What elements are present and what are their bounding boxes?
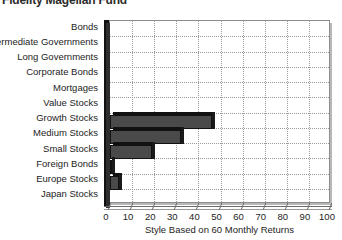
y-axis-label: Small Stocks	[0, 143, 98, 154]
bar	[110, 191, 111, 203]
x-axis-tick-label: 20	[145, 211, 156, 222]
bar-side-face	[152, 142, 155, 159]
plot-right-wall	[330, 23, 332, 206]
x-axis-tick-label: 100	[319, 211, 335, 222]
bar	[110, 145, 152, 159]
bar-side-face	[181, 127, 184, 144]
gridline-horizontal	[110, 174, 329, 175]
gridline-horizontal	[110, 97, 329, 98]
x-axis-line	[104, 206, 332, 207]
x-axis-tick-label: 60	[233, 211, 244, 222]
bar	[110, 54, 111, 68]
x-axis-tick-label: 30	[167, 211, 178, 222]
bar-top-face	[113, 112, 215, 115]
bar	[110, 160, 112, 174]
chart-title: Fidelity Magellan Fund	[2, 0, 127, 7]
x-axis-tick-label: 70	[255, 211, 266, 222]
bar-face	[110, 176, 119, 190]
y-axis-label: Corporate Bonds	[0, 66, 98, 77]
y-axis-label: Growth Stocks	[0, 112, 98, 123]
x-axis-tick-label: 40	[189, 211, 200, 222]
y-axis-label: Europe Stocks	[0, 173, 98, 184]
bar	[110, 99, 111, 113]
gridline-horizontal	[110, 36, 329, 37]
bar	[110, 176, 119, 190]
x-axis-title: Style Based on 60 Monthly Returns	[109, 224, 330, 235]
gridline-horizontal	[110, 67, 329, 68]
bar-side-face	[119, 173, 122, 190]
x-axis-tick-label: 50	[211, 211, 222, 222]
y-axis-label: Bonds	[0, 21, 98, 32]
bar	[110, 23, 111, 37]
bar	[110, 84, 111, 98]
gridline-vertical	[243, 21, 244, 202]
x-axis-tick-label: 10	[123, 211, 134, 222]
gridline-vertical	[309, 21, 310, 202]
plot-area	[109, 20, 330, 203]
bar-face	[110, 145, 152, 159]
gridline-vertical	[221, 21, 222, 202]
bar-top-face	[113, 127, 184, 130]
gridline-vertical	[287, 21, 288, 202]
y-axis-label: Intermediate Governments	[0, 36, 98, 47]
gridline-vertical	[265, 21, 266, 202]
bar	[110, 69, 111, 83]
bar-chart: Fidelity Magellan Fund BondsIntermediate…	[0, 0, 342, 240]
bar	[110, 38, 111, 52]
y-axis-label: Mortgages	[0, 82, 98, 93]
x-axis-tick-label: 0	[103, 211, 108, 222]
y-axis-label: Japan Stocks	[0, 188, 98, 199]
x-axis-tick-label: 90	[300, 211, 311, 222]
bar-side-face	[212, 112, 215, 129]
y-axis-label: Medium Stocks	[0, 127, 98, 138]
y-axis-label: Value Stocks	[0, 97, 98, 108]
gridline-horizontal	[110, 52, 329, 53]
gridline-horizontal	[110, 82, 329, 83]
y-axis-label: Foreign Bonds	[0, 158, 98, 169]
gridline-horizontal	[110, 189, 329, 190]
y-axis-spine-face	[106, 23, 110, 208]
y-axis-label: Long Governments	[0, 51, 98, 62]
x-axis-tick-label: 80	[278, 211, 289, 222]
bar-top-face	[113, 142, 155, 145]
